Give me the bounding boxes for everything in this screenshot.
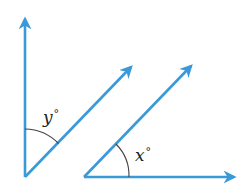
angle-diagram: y° x°	[0, 0, 249, 194]
angle-x-arc	[116, 144, 129, 177]
degree-symbol: °	[146, 145, 152, 158]
angle-x-label: x°	[135, 146, 151, 164]
angle-x-variable: x	[135, 145, 145, 165]
left-diagonal-ray	[25, 67, 131, 177]
degree-symbol: °	[54, 107, 60, 120]
diagram-graphic	[0, 0, 249, 194]
angle-y-label: y°	[43, 108, 59, 126]
angle-y-arc	[25, 129, 59, 144]
angle-y-variable: y	[43, 107, 53, 127]
